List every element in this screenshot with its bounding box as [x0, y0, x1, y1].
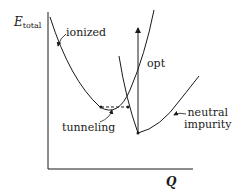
- x-axis-label: Q: [166, 176, 176, 188]
- neutral-min-dot: [137, 132, 140, 135]
- neutral-label-line2: impurity: [184, 119, 232, 131]
- ionized-pointer-arrow: [58, 34, 66, 46]
- tunneling-end-dot: [127, 106, 130, 109]
- tunneling-label: tunneling: [62, 122, 115, 133]
- ionized-label: ionized: [66, 27, 106, 38]
- ionized-min-dot: [100, 106, 103, 109]
- opt-label: opt: [147, 58, 165, 69]
- neutral-impurity-label: neutral impurity: [184, 107, 232, 131]
- y-axis-label: Etotal: [14, 16, 41, 30]
